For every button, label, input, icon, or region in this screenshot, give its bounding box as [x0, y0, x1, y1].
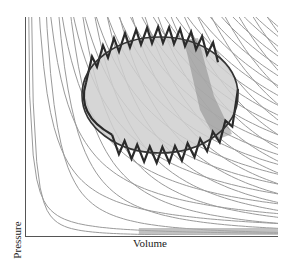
x-axis-label: Volume [115, 237, 185, 249]
y-axis-label: Pressure [11, 210, 25, 263]
adiabat-curve [26, 0, 294, 9]
cycle-region [82, 27, 238, 163]
curve-convergence-band [139, 228, 278, 235]
